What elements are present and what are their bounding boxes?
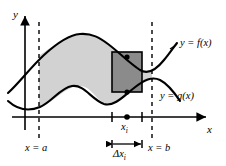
area-between-curves-figure: y x y = f(x) y = g(x) x = a x = b xi Δxi: [0, 0, 226, 166]
point-on-g-curve: [124, 89, 129, 94]
point-on-f-curve: [124, 54, 129, 59]
x-axis-label: x: [207, 124, 212, 135]
label-delta-x-subscript: i: [124, 153, 126, 162]
label-x-equals-b: x = b: [148, 143, 170, 154]
sample-point-dot: [124, 114, 130, 120]
label-sample-point-subscript: i: [126, 126, 128, 135]
delta-x-measure-arrow: [112, 140, 142, 148]
curve-label-f-text: y = f(x): [180, 37, 212, 48]
label-sample-point: xi: [121, 122, 128, 135]
label-x-equals-a: x = a: [25, 143, 47, 154]
label-delta-x: Δxi: [113, 149, 126, 162]
label-delta-x-base: Δx: [113, 148, 124, 159]
curve-label-f: y = f(x): [180, 38, 212, 49]
curve-label-g-text: y = g(x): [160, 90, 194, 101]
y-axis-label: y: [13, 9, 18, 20]
curve-label-g: y = g(x): [160, 91, 194, 102]
